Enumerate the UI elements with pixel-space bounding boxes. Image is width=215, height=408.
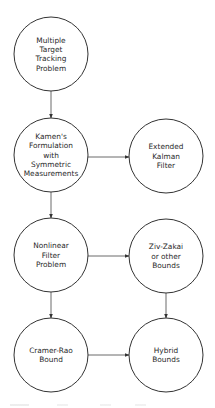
node-label-line: Kamen's: [35, 132, 67, 141]
node-mtt: MultipleTargetTrackingProblem: [14, 17, 88, 91]
node-label-line: Formulation: [29, 141, 73, 150]
node-label-line: Problem: [36, 260, 66, 269]
node-hybrid: HybridBounds: [129, 318, 203, 392]
node-label-line: Problem: [36, 64, 66, 73]
cropped-caption-fragment: [10, 404, 205, 406]
node-label-line: Target: [39, 45, 63, 54]
node-label-line: Cramer-Rao: [29, 346, 73, 355]
node-label-line: Filter: [157, 161, 176, 170]
node-label-line: Tracking: [35, 54, 67, 63]
node-label-line: Measurements: [24, 169, 79, 178]
nodes-layer: MultipleTargetTrackingProblemKamen'sForm…: [14, 17, 203, 392]
node-label-line: Bound: [39, 355, 63, 364]
node-label-line: Kalman: [152, 152, 180, 161]
node-label-line: Bounds: [152, 261, 180, 270]
node-label-line: Bounds: [152, 355, 180, 364]
node-label-line: or other: [151, 252, 182, 261]
node-label-line: Ziv-Zakai: [149, 242, 183, 251]
node-label-line: Extended: [148, 142, 183, 151]
node-label-line: Nonlinear: [33, 241, 70, 250]
node-label-line: Filter: [42, 251, 61, 260]
node-label-line: Multiple: [36, 36, 66, 45]
node-label-line: with: [43, 151, 59, 160]
flow-diagram: MultipleTargetTrackingProblemKamen'sForm…: [0, 0, 215, 408]
node-label-line: Hybrid: [154, 346, 179, 355]
node-zivzakai: Ziv-Zakaior otherBounds: [129, 219, 203, 293]
node-nonlinear: NonlinearFilterProblem: [14, 218, 88, 292]
node-label-line: Symmetric: [31, 160, 71, 169]
node-crb: Cramer-RaoBound: [14, 318, 88, 392]
node-kamen: Kamen'sFormulationwithSymmetricMeasureme…: [14, 118, 88, 192]
node-ekf: ExtendedKalmanFilter: [129, 119, 203, 193]
